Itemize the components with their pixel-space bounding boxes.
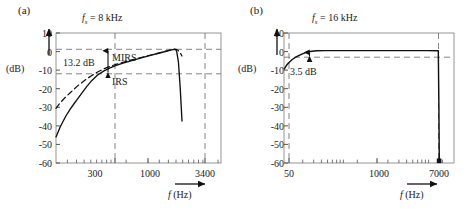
panel-b-xtick-minor-marks	[303, 160, 443, 163]
panel-a: (a) fs = 8 kHz (dB) 10 0 -10 -20 -30 -40…	[0, 0, 232, 214]
panel-b-ytick-marks	[284, 33, 288, 163]
panel-a-ytick-marks	[56, 33, 60, 163]
panel-a-curve-mirs	[56, 49, 182, 108]
panel-b-xtick-major-marks	[289, 158, 439, 163]
panel-a-xtick-minor-marks	[67, 160, 218, 163]
panel-a-plot	[0, 0, 232, 214]
panel-b: (b) fs = 16 kHz (dB) 10 0 -10 -20 -30 -4…	[232, 0, 464, 214]
panel-a-xtick-major-marks	[115, 158, 205, 163]
figure-container: (a) fs = 8 kHz (dB) 10 0 -10 -20 -30 -40…	[0, 0, 464, 214]
panel-a-curve-irs	[56, 49, 182, 137]
panel-b-plot	[232, 0, 464, 214]
panel-b-endpoint-marker	[437, 159, 442, 164]
panel-b-curve-mirs	[284, 51, 439, 162]
panel-a-plot-frame	[56, 33, 221, 163]
